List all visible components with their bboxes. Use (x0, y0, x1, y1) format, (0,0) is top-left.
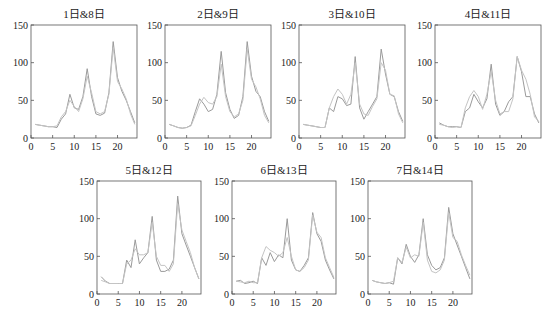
series-line-11日 (439, 57, 539, 128)
x-tick-label: 10 (203, 141, 213, 152)
y-tick-label: 50 (18, 95, 28, 106)
y-tick-label: 150 (79, 176, 94, 187)
y-tick-label: 0 (360, 289, 365, 300)
y-tick-label: 150 (13, 20, 28, 31)
y-tick-label: 50 (219, 251, 229, 262)
chart-panel: 3日&10日05010015005101520 (281, 8, 405, 152)
y-tick-label: 150 (281, 20, 296, 31)
x-tick-label: 0 (366, 297, 371, 308)
y-tick-label: 0 (224, 289, 229, 300)
y-tick-label: 100 (417, 57, 432, 68)
chart-title: 1日&8日 (63, 8, 105, 20)
x-tick-label: 10 (134, 297, 144, 308)
x-tick-label: 0 (163, 141, 168, 152)
y-tick-label: 100 (281, 57, 296, 68)
x-tick-label: 5 (184, 141, 189, 152)
chart-title: 6日&13日 (260, 164, 307, 176)
y-tick-label: 150 (350, 176, 365, 187)
x-tick-label: 15 (359, 141, 369, 152)
y-tick-label: 0 (427, 133, 432, 144)
y-tick-label: 0 (157, 133, 162, 144)
x-tick-label: 10 (269, 297, 279, 308)
y-tick-label: 0 (291, 133, 296, 144)
x-tick-label: 5 (318, 141, 323, 152)
x-tick-label: 15 (156, 297, 166, 308)
chart-title: 7日&14日 (396, 164, 443, 176)
series-line-8日 (35, 48, 135, 127)
x-tick-label: 20 (381, 141, 391, 152)
y-tick-label: 50 (422, 95, 432, 106)
y-tick-label: 150 (214, 176, 229, 187)
x-tick-label: 5 (50, 141, 55, 152)
x-tick-label: 15 (427, 297, 437, 308)
x-tick-label: 15 (291, 297, 301, 308)
x-tick-label: 20 (247, 141, 257, 152)
x-tick-label: 5 (116, 297, 121, 308)
x-tick-label: 10 (405, 297, 415, 308)
series-line-13日 (236, 215, 334, 283)
y-tick-label: 150 (147, 20, 162, 31)
y-tick-label: 50 (84, 251, 94, 262)
x-tick-label: 5 (251, 297, 256, 308)
y-tick-label: 50 (286, 95, 296, 106)
y-tick-label: 0 (89, 289, 94, 300)
x-tick-label: 0 (433, 141, 438, 152)
series-line-4日 (439, 57, 539, 128)
chart-panel: 5日&12日05010015005101520 (79, 164, 201, 308)
y-tick-label: 150 (417, 20, 432, 31)
chart-panel: 7日&14日05010015005101520 (350, 164, 472, 308)
figure: 1日&8日050100150051015202日&9日0501001500510… (0, 0, 551, 326)
chart-panel: 1日&8日05010015005101520 (13, 8, 137, 152)
chart-panel: 6日&13日05010015005101520 (214, 164, 336, 308)
series-line-3日 (303, 49, 403, 127)
x-tick-label: 15 (225, 141, 235, 152)
plot-frame (299, 25, 405, 138)
x-tick-label: 0 (297, 141, 302, 152)
x-tick-label: 0 (95, 297, 100, 308)
plot-frame (435, 25, 541, 138)
series-line-10日 (303, 63, 403, 128)
x-tick-label: 15 (495, 141, 505, 152)
x-tick-label: 5 (454, 141, 459, 152)
x-tick-label: 0 (230, 297, 235, 308)
x-tick-label: 20 (312, 297, 322, 308)
y-tick-label: 50 (355, 251, 365, 262)
series-line-12日 (101, 204, 199, 284)
x-tick-label: 20 (113, 141, 123, 152)
chart-title: 2日&9日 (197, 8, 239, 20)
x-tick-label: 10 (473, 141, 483, 152)
plot-frame (368, 181, 472, 294)
plot-frame (232, 181, 336, 294)
x-tick-label: 5 (387, 297, 392, 308)
chart-panel: 4日&11日05010015005101520 (417, 8, 541, 152)
x-tick-label: 0 (29, 141, 34, 152)
y-tick-label: 100 (13, 57, 28, 68)
chart-panel: 2日&9日05010015005101520 (147, 8, 271, 152)
series-line-9日 (169, 49, 268, 128)
x-tick-label: 10 (337, 141, 347, 152)
y-tick-label: 100 (147, 57, 162, 68)
x-tick-label: 10 (69, 141, 79, 152)
y-tick-label: 100 (350, 213, 365, 224)
x-tick-label: 20 (177, 297, 187, 308)
x-tick-label: 20 (448, 297, 458, 308)
series-line-6日 (236, 213, 334, 284)
y-tick-label: 100 (79, 213, 94, 224)
chart-title: 3日&10日 (328, 8, 375, 20)
x-tick-label: 20 (517, 141, 527, 152)
series-line-1日 (35, 42, 135, 128)
series-line-14日 (372, 213, 470, 284)
chart-title: 5日&12日 (125, 164, 172, 176)
plot-frame (97, 181, 201, 294)
x-tick-label: 15 (91, 141, 101, 152)
series-line-2日 (169, 42, 268, 129)
plot-frame (31, 25, 137, 138)
series-line-7日 (372, 207, 470, 284)
y-tick-label: 100 (214, 213, 229, 224)
y-tick-label: 0 (23, 133, 28, 144)
chart-title: 4日&11日 (465, 8, 512, 20)
y-tick-label: 50 (152, 95, 162, 106)
